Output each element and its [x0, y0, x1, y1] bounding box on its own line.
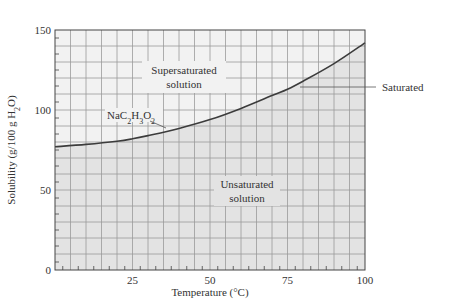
svg-text:Unsaturated: Unsaturated: [220, 178, 274, 190]
y-tick-label: 100: [35, 104, 52, 116]
unsaturated-label: Unsaturated solution: [214, 176, 280, 206]
supersaturated-label: Supersaturated solution: [142, 61, 226, 93]
y-axis-ticks: 050100150: [35, 24, 52, 276]
x-tick-label: 75: [282, 274, 294, 286]
svg-text:solution: solution: [166, 78, 202, 90]
svg-text:Saturated: Saturated: [382, 81, 424, 93]
y-tick-label: 50: [40, 184, 52, 196]
y-tick-label: 0: [46, 264, 52, 276]
x-tick-label: 25: [127, 274, 139, 286]
x-tick-label: 100: [357, 274, 374, 286]
y-axis-title: Solubility (g/100 g H2O): [5, 95, 22, 205]
solubility-chart: 255075100 050100150 Temperature (°C) Sol…: [0, 0, 449, 305]
svg-text:Supersaturated: Supersaturated: [151, 64, 217, 76]
x-axis-title: Temperature (°C): [171, 286, 249, 299]
x-tick-label: 50: [205, 274, 217, 286]
svg-text:solution: solution: [229, 192, 265, 204]
y-tick-label: 150: [35, 24, 52, 36]
x-axis-ticks: 255075100: [127, 274, 374, 286]
